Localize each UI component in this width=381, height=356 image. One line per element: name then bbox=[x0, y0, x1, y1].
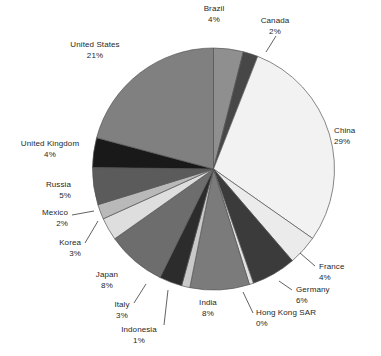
slice-label-germany: Germany 6% bbox=[296, 285, 348, 306]
slice-label-italy: Italy 3% bbox=[107, 300, 137, 321]
slice-label-china-pct: 29% bbox=[334, 137, 380, 148]
leader-line-canada bbox=[266, 36, 276, 52]
slice-label-indonesia: Indonesia 1% bbox=[111, 325, 167, 346]
slice-label-canada-pct: 2% bbox=[249, 27, 301, 38]
slice-label-canada-name: Canada bbox=[249, 16, 301, 27]
slice-label-brazil-pct: 4% bbox=[188, 15, 240, 26]
slice-label-japan-name: Japan bbox=[88, 270, 126, 281]
slice-label-us-name: United States bbox=[61, 40, 129, 51]
slice-label-germany-name: Germany bbox=[296, 285, 348, 296]
slice-label-italy-name: Italy bbox=[107, 300, 137, 311]
leader-line-korea bbox=[85, 221, 98, 243]
slice-label-korea-name: Korea bbox=[37, 238, 81, 249]
leader-line-hongkong bbox=[243, 292, 253, 313]
leader-line-france bbox=[300, 253, 315, 266]
slice-label-korea: Korea 3% bbox=[37, 238, 81, 259]
slice-label-indonesia-pct: 1% bbox=[111, 336, 167, 347]
slice-label-uk: United Kingdom 4% bbox=[12, 139, 88, 160]
slice-label-china: China 29% bbox=[334, 126, 380, 147]
slice-label-india-pct: 8% bbox=[186, 309, 230, 320]
slice-label-france-pct: 4% bbox=[319, 273, 367, 284]
leader-line-germany bbox=[279, 281, 292, 290]
slice-label-germany-pct: 6% bbox=[296, 296, 348, 307]
slice-label-india: India 8% bbox=[186, 298, 230, 319]
slice-label-uk-name: United Kingdom bbox=[12, 139, 88, 150]
slice-label-russia-pct: 5% bbox=[25, 191, 71, 202]
slice-label-brazil-name: Brazil bbox=[188, 4, 240, 15]
slice-label-hongkong-name: Hong Kong SAR bbox=[256, 308, 332, 319]
slice-label-france: France 4% bbox=[319, 262, 367, 283]
slice-label-korea-pct: 3% bbox=[37, 249, 81, 260]
slice-label-uk-pct: 4% bbox=[12, 150, 88, 161]
slice-label-mexico-name: Mexico bbox=[22, 208, 68, 219]
pie-slices bbox=[93, 48, 335, 290]
slice-label-brazil: Brazil 4% bbox=[188, 4, 240, 25]
slice-label-indonesia-name: Indonesia bbox=[111, 325, 167, 336]
slice-label-mexico-pct: 2% bbox=[22, 219, 68, 230]
slice-label-russia: Russia 5% bbox=[25, 180, 71, 201]
slice-label-russia-name: Russia bbox=[25, 180, 71, 191]
slice-label-italy-pct: 3% bbox=[107, 311, 137, 322]
slice-label-hongkong-pct: 0% bbox=[256, 319, 332, 330]
slice-label-india-name: India bbox=[186, 298, 230, 309]
leader-line-mexico bbox=[72, 211, 94, 215]
slice-label-hongkong: Hong Kong SAR 0% bbox=[256, 308, 332, 329]
slice-label-france-name: France bbox=[319, 262, 367, 273]
slice-label-china-name: China bbox=[334, 126, 380, 137]
slice-label-mexico: Mexico 2% bbox=[22, 208, 68, 229]
slice-label-us: United States 21% bbox=[61, 40, 129, 61]
pie-chart: Brazil 4% Canada 2% China 29% France 4% … bbox=[0, 0, 381, 356]
slice-label-us-pct: 21% bbox=[61, 51, 129, 62]
slice-label-canada: Canada 2% bbox=[249, 16, 301, 37]
slice-label-japan: Japan 8% bbox=[88, 270, 126, 291]
slice-label-japan-pct: 8% bbox=[88, 281, 126, 292]
leader-line-indonesia bbox=[164, 290, 168, 325]
